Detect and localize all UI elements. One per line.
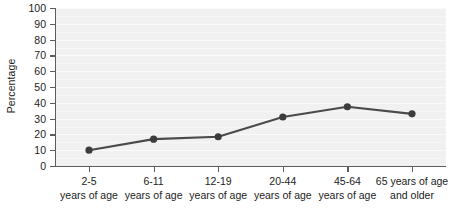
y-axis-tick-mark (50, 24, 55, 25)
x-axis-tick-mark (412, 167, 413, 172)
y-axis-tick-label: 40 (34, 98, 46, 109)
data-point (344, 103, 351, 110)
x-axis-tick-label-line: 2-5 (60, 175, 118, 189)
x-axis-tick-mark (89, 167, 90, 172)
data-point (279, 113, 286, 120)
x-axis-tick-label: 12-19years of age (189, 175, 247, 202)
y-axis-tick-mark (50, 119, 55, 120)
x-axis-tick-label-line: 65 years of age (376, 175, 448, 189)
y-axis-tick-mark (50, 8, 55, 9)
y-axis-tick-mark (50, 71, 55, 72)
x-axis-tick-label: 20-44years of age (254, 175, 312, 202)
y-axis-tick-label: 100 (28, 3, 46, 14)
x-axis-tick-labels: 2-5years of age6-11years of age12-19year… (0, 175, 461, 215)
x-axis-tick-label: 45-64years of age (318, 175, 376, 202)
x-axis-tick-mark (347, 167, 348, 172)
series-line (89, 107, 412, 150)
y-axis-tick-labels: 0102030405060708090100 (22, 0, 50, 172)
x-axis-tick-label-line: years of age (125, 189, 183, 203)
y-axis-tick-label: 20 (34, 129, 46, 140)
y-axis-title: Percentage (0, 0, 22, 172)
y-axis-tick-label: 30 (34, 113, 46, 124)
y-axis-tick-label: 50 (34, 82, 46, 93)
y-axis-tick-label: 10 (34, 145, 46, 156)
x-axis-tick-label-line: years of age (318, 189, 376, 203)
x-axis-tick-label: 65 years of ageand older (376, 175, 448, 202)
y-axis-tick-mark (50, 166, 55, 167)
x-axis-tick-mark (154, 167, 155, 172)
x-axis-line (55, 166, 446, 167)
x-axis-tick-label: 2-5years of age (60, 175, 118, 202)
y-axis-tick-mark (50, 40, 55, 41)
data-point (85, 147, 92, 154)
y-axis-tick-label: 90 (34, 19, 46, 30)
series-markers (85, 103, 415, 154)
y-axis-tick-label: 70 (34, 50, 46, 61)
data-point (215, 133, 222, 140)
x-axis-tick-label-line: 12-19 (189, 175, 247, 189)
data-point (408, 110, 415, 117)
y-axis-tick-label: 80 (34, 34, 46, 45)
x-axis-tick-mark (218, 167, 219, 172)
x-axis-tick-label-line: years of age (60, 189, 118, 203)
x-axis-tick-label: 6-11years of age (125, 175, 183, 202)
x-axis-tick-label-line: years of age (254, 189, 312, 203)
y-axis-tick-label: 0 (40, 161, 46, 172)
x-axis-tick-label-line: and older (376, 189, 448, 203)
data-point (150, 136, 157, 143)
y-axis-tick-mark (50, 55, 55, 56)
x-axis-tick-label-line: 20-44 (254, 175, 312, 189)
line-series-layer (56, 8, 446, 166)
y-axis-tick-mark (50, 87, 55, 88)
y-axis-tick-label: 60 (34, 66, 46, 77)
y-axis-title-text: Percentage (5, 59, 17, 114)
x-axis-tick-mark (283, 167, 284, 172)
chart-figure: Percentage 0102030405060708090100 2-5yea… (0, 0, 461, 215)
x-axis-tick-label-line: 6-11 (125, 175, 183, 189)
y-axis-tick-mark (50, 150, 55, 151)
x-axis-tick-label-line: 45-64 (318, 175, 376, 189)
y-axis-tick-mark (50, 103, 55, 104)
x-axis-tick-label-line: years of age (189, 189, 247, 203)
y-axis-tick-mark (50, 134, 55, 135)
